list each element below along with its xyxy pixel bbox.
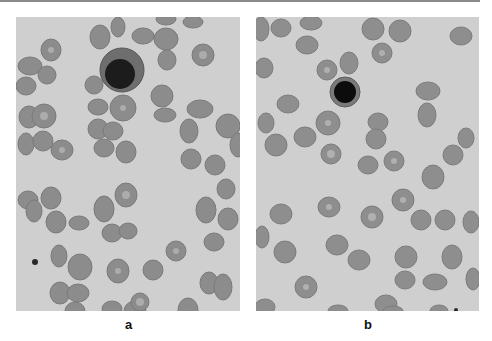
panel-label-a: a [125, 317, 132, 332]
top-rule [0, 0, 480, 2]
blood-smear-image-a [16, 17, 240, 311]
blood-smear-image-b [256, 17, 479, 311]
panel-label-b: b [364, 317, 372, 332]
micrograph-panel-a [16, 17, 240, 311]
nucleated-cell-a [100, 48, 144, 92]
nucleated-cell-b [330, 77, 360, 107]
micrograph-panel-b [256, 17, 479, 311]
